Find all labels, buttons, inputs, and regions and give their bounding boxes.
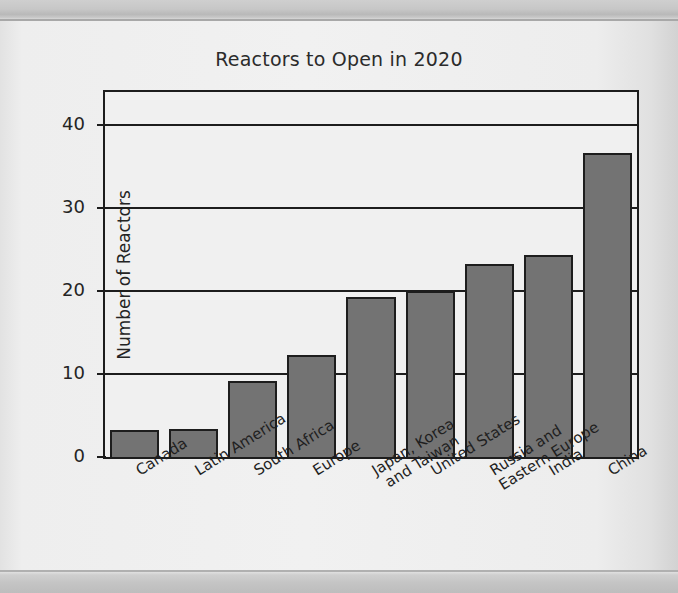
bar-4 xyxy=(346,297,395,457)
y-tick-label-40: 40 xyxy=(41,113,85,134)
y-tick-0 xyxy=(97,456,106,458)
page-edge-top xyxy=(0,0,678,20)
page-edge-bottom-line xyxy=(0,570,678,572)
plot-area: Number of Reactors xyxy=(103,90,639,459)
y-tick-10 xyxy=(97,373,106,375)
chart-title: Reactors to Open in 2020 xyxy=(0,48,678,70)
page-edge-top-line xyxy=(0,19,678,21)
y-tick-20 xyxy=(97,290,106,292)
page-edge-bottom xyxy=(0,571,678,593)
y-tick-label-30: 30 xyxy=(41,196,85,217)
y-tick-30 xyxy=(97,207,106,209)
scanned-page: Reactors to Open in 2020 Number of React… xyxy=(0,0,678,593)
y-tick-label-10: 10 xyxy=(41,362,85,383)
y-tick-label-0: 0 xyxy=(41,445,85,466)
y-tick-40 xyxy=(97,124,106,126)
bar-8 xyxy=(583,153,632,457)
gridline-y-30 xyxy=(105,207,637,209)
plot-inner xyxy=(105,92,637,457)
y-tick-label-20: 20 xyxy=(41,279,85,300)
gridline-y-40 xyxy=(105,124,637,126)
